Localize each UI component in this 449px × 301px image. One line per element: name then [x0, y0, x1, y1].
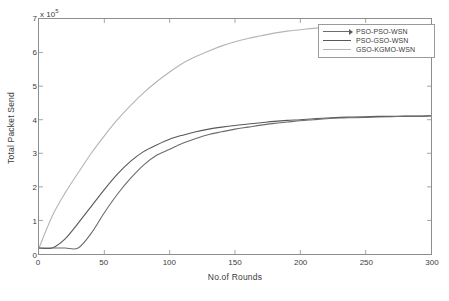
x-axis-tick-label: 200 [284, 258, 318, 267]
legend-line-swatch [323, 49, 351, 50]
y-axis-tick-label: 7 [11, 14, 37, 23]
chart-legend: PSO-PSO-WSNPSO-GSO-WSNGSO-KGMO-WSN [318, 24, 435, 58]
legend-line-swatch [323, 31, 351, 32]
x-axis-tick-label: 150 [218, 258, 252, 267]
legend-item-label: PSO-GSO-WSN [353, 37, 408, 44]
legend-item-label: PSO-PSO-WSN [353, 28, 408, 35]
legend-item[interactable]: GSO-KGMO-WSN [321, 45, 432, 54]
x-axis-label-text: No.of Rounds [208, 272, 262, 282]
x-axis-tick-label: 0 [21, 258, 55, 267]
x-axis-tick-label: 300 [415, 258, 449, 267]
y-axis-tick-label: 5 [11, 81, 37, 90]
x-axis-tick-label: 250 [349, 258, 383, 267]
data-series-line [39, 25, 431, 248]
y-axis-tick-label: 1 [11, 217, 37, 226]
chart-figure: Total Packet Send x 105 01234567 0501001… [0, 0, 449, 301]
x-axis-tick-label: 50 [87, 258, 121, 267]
y-axis-tick-label: 4 [11, 115, 37, 124]
data-series-line [39, 116, 431, 249]
legend-line-icon [321, 36, 353, 45]
data-series-line [39, 116, 431, 249]
x-axis-tick-label: 100 [152, 258, 186, 267]
y-axis-tick-label: 3 [11, 149, 37, 158]
legend-item[interactable]: PSO-PSO-WSN [321, 27, 432, 36]
legend-line-icon [321, 45, 353, 54]
legend-item[interactable]: PSO-GSO-WSN [321, 36, 432, 45]
y-axis-tick-label: 6 [11, 47, 37, 56]
x-axis-label: No.of Rounds [38, 272, 432, 282]
legend-line-arrow-icon [321, 27, 353, 36]
legend-line-swatch [323, 40, 351, 41]
legend-item-label: GSO-KGMO-WSN [353, 46, 415, 53]
y-axis-tick-label: 2 [11, 183, 37, 192]
y-axis-exponent-power: 5 [55, 8, 58, 14]
